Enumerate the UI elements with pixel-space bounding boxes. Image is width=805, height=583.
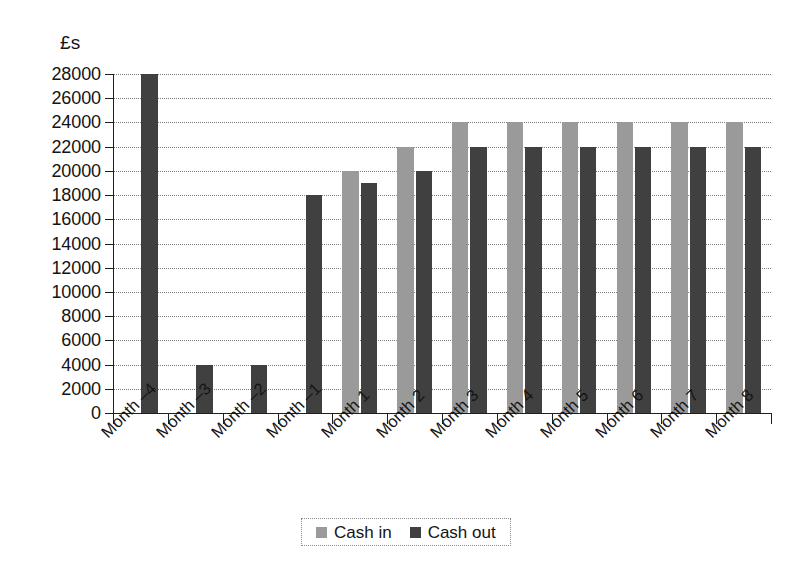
y-axis-tick xyxy=(105,195,113,196)
y-axis-tick-label: 20000 xyxy=(5,162,101,180)
legend-label: Cash out xyxy=(428,524,496,541)
bar-cash-in xyxy=(342,171,358,413)
y-axis-line xyxy=(113,74,114,414)
y-axis-tick xyxy=(105,122,113,123)
bar-cash-out xyxy=(361,183,377,413)
bar-cash-in xyxy=(507,122,523,413)
plot-area xyxy=(113,74,771,413)
bar-cash-in xyxy=(671,122,687,413)
y-axis-tick xyxy=(105,316,113,317)
chart-legend: Cash inCash out xyxy=(301,518,511,546)
y-axis-tick-label: 18000 xyxy=(5,186,101,204)
y-axis-tick xyxy=(105,147,113,148)
legend-swatch-icon xyxy=(410,527,421,538)
y-axis-tick-label: 2000 xyxy=(5,380,101,398)
y-axis-tick xyxy=(105,171,113,172)
bar-cash-out xyxy=(745,147,761,413)
y-axis-tick xyxy=(105,389,113,390)
x-axis-tick xyxy=(771,413,772,424)
y-axis-tick-label: 22000 xyxy=(5,138,101,156)
y-axis-tick-label: 6000 xyxy=(5,331,101,349)
y-axis-tick xyxy=(105,244,113,245)
y-axis-tick xyxy=(105,219,113,220)
legend-item: Cash out xyxy=(410,524,496,541)
y-axis-tick-label: 14000 xyxy=(5,235,101,253)
bar-cash-in xyxy=(452,122,468,413)
y-axis-tick-label: 0 xyxy=(5,404,101,422)
y-axis-tick-label: 8000 xyxy=(5,307,101,325)
y-axis-tick-label: 10000 xyxy=(5,283,101,301)
bar-cash-out xyxy=(525,147,541,413)
y-axis-tick xyxy=(105,365,113,366)
y-axis-tick xyxy=(105,413,113,414)
y-axis-tick-labels: 0200040006000800010000120001400016000180… xyxy=(0,0,101,583)
grid-line xyxy=(113,98,771,99)
bar-cash-out xyxy=(690,147,706,413)
bar-cash-in xyxy=(397,147,413,413)
bar-cash-out xyxy=(470,147,486,413)
legend-label: Cash in xyxy=(334,524,392,541)
y-axis-tick-label: 24000 xyxy=(5,113,101,131)
y-axis-tick-label: 16000 xyxy=(5,210,101,228)
y-axis-tick xyxy=(105,268,113,269)
y-axis-tick xyxy=(105,74,113,75)
y-axis-tick xyxy=(105,292,113,293)
y-axis-tick-label: 28000 xyxy=(5,65,101,83)
bar-cash-out xyxy=(635,147,651,413)
bar-cash-out xyxy=(416,171,432,413)
legend-swatch-icon xyxy=(316,527,327,538)
bar-cash-in xyxy=(617,122,633,413)
grid-line xyxy=(113,74,771,75)
y-axis-tick-label: 12000 xyxy=(5,259,101,277)
y-axis-tick xyxy=(105,98,113,99)
bar-cash-in xyxy=(562,122,578,413)
legend-item: Cash in xyxy=(316,524,392,541)
cash-flow-bar-chart: £s 0200040006000800010000120001400016000… xyxy=(0,0,805,583)
y-axis-tick-label: 4000 xyxy=(5,356,101,374)
bar-cash-out xyxy=(580,147,596,413)
y-axis-tick-label: 26000 xyxy=(5,89,101,107)
bar-cash-out xyxy=(141,74,157,413)
bar-cash-in xyxy=(726,122,742,413)
y-axis-tick xyxy=(105,340,113,341)
